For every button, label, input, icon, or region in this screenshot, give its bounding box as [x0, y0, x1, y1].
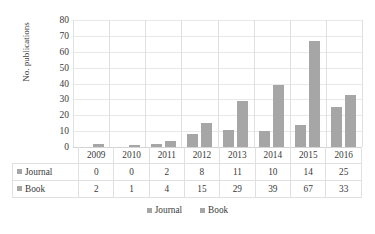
- plot-area: 01020304050607080: [73, 20, 362, 147]
- table-row-label: Journal: [25, 167, 52, 177]
- table-header-2014: 2014: [255, 147, 290, 164]
- bar-group-2014: [254, 20, 290, 147]
- table-cell-journal-2009: 0: [79, 164, 114, 181]
- bar-journal-2014: [259, 131, 270, 147]
- table-row-header-journal: Journal: [13, 164, 79, 181]
- table-cell-book-2010: 1: [114, 181, 149, 198]
- bar-book-2014: [273, 85, 284, 147]
- bar-book-2015: [309, 41, 320, 147]
- bar-group-2009: [73, 20, 109, 147]
- y-tick-label: 10: [60, 126, 70, 136]
- legend-item-journal[interactable]: Journal: [147, 205, 182, 215]
- table-cell-journal-2014: 10: [255, 164, 290, 181]
- table-cell-book-2011: 4: [149, 181, 184, 198]
- bar-group-2013: [218, 20, 254, 147]
- y-tick-label: 30: [60, 94, 70, 104]
- table-cell-book-2014: 39: [255, 181, 290, 198]
- table-row-header-book: Book: [13, 181, 79, 198]
- legend-label: Journal: [155, 205, 182, 215]
- table-header-2009: 2009: [79, 147, 114, 164]
- table-cell-journal-2015: 14: [291, 164, 326, 181]
- bar-book-2013: [237, 101, 248, 147]
- bar-journal-2016: [331, 107, 342, 147]
- y-tick-label: 80: [60, 15, 70, 25]
- y-tick-label: 50: [60, 63, 70, 73]
- table-row: 20092010201120122013201420152016: [13, 147, 362, 164]
- table-cell-book-2015: 67: [291, 181, 326, 198]
- legend-swatch-icon: [17, 169, 22, 174]
- y-tick-label: 60: [60, 47, 70, 57]
- legend-item-book[interactable]: Book: [200, 205, 228, 215]
- y-axis-title: No. publications: [21, 0, 31, 107]
- bar-group-2016: [326, 20, 362, 147]
- table-cell-journal-2010: 0: [114, 164, 149, 181]
- publications-bar-chart: No. publications 01020304050607080 20092…: [0, 0, 375, 234]
- table-corner-cell: [13, 147, 79, 164]
- table-cell-journal-2012: 8: [184, 164, 219, 181]
- y-tick-label: 70: [60, 31, 70, 41]
- legend-swatch-icon: [200, 208, 205, 213]
- y-tick-label: 20: [60, 110, 70, 120]
- table-header-2011: 2011: [149, 147, 184, 164]
- legend-swatch-icon: [147, 208, 152, 213]
- table-cell-book-2016: 33: [326, 181, 362, 198]
- bar-groups: [73, 20, 362, 147]
- table-cell-journal-2013: 11: [220, 164, 255, 181]
- y-tick-label: 40: [60, 79, 70, 89]
- bar-group-2011: [145, 20, 181, 147]
- legend-swatch-icon: [17, 186, 22, 191]
- bar-book-2016: [345, 95, 356, 147]
- bar-journal-2012: [187, 134, 198, 147]
- table-header-2015: 2015: [291, 147, 326, 164]
- table-header-2016: 2016: [326, 147, 362, 164]
- data-table: 20092010201120122013201420152016Journal0…: [12, 147, 362, 198]
- table-header-2010: 2010: [114, 147, 149, 164]
- legend-label: Book: [208, 205, 228, 215]
- table-row: Book2141529396733: [13, 181, 362, 198]
- bar-group-2015: [290, 20, 326, 147]
- table-row-label: Book: [25, 184, 45, 194]
- table-cell-journal-2011: 2: [149, 164, 184, 181]
- chart-legend: JournalBook: [0, 205, 375, 215]
- table-cell-book-2009: 2: [79, 181, 114, 198]
- bar-group-2010: [109, 20, 145, 147]
- table-cell-journal-2016: 25: [326, 164, 362, 181]
- table-header-2013: 2013: [220, 147, 255, 164]
- bar-journal-2015: [295, 125, 306, 147]
- bar-group-2012: [181, 20, 217, 147]
- table-header-2012: 2012: [184, 147, 219, 164]
- category-separator: [362, 20, 363, 147]
- bar-journal-2013: [223, 130, 234, 147]
- table-cell-book-2012: 15: [184, 181, 219, 198]
- table-cell-book-2013: 29: [220, 181, 255, 198]
- table-row: Journal002811101425: [13, 164, 362, 181]
- bar-book-2012: [201, 123, 212, 147]
